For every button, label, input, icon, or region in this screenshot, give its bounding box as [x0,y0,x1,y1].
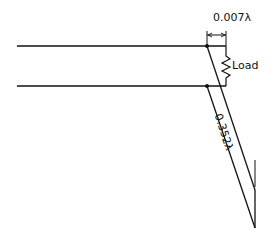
load-label: Load [232,59,258,72]
diagram-canvas [0,0,275,248]
gap-dimension-label: 0.007λ [213,11,251,24]
load-resistor-icon [222,46,230,86]
stub-inner-line [207,86,255,228]
